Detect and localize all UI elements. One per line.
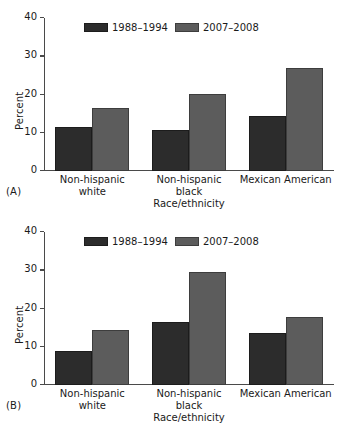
y-axis-tick-label: 40 <box>7 11 37 22</box>
y-axis-tick-mark <box>40 384 44 385</box>
y-axis-tick-mark <box>40 269 44 270</box>
legend-item-series-1: 2007–2008 <box>175 22 259 33</box>
bar <box>286 68 323 171</box>
y-axis-tick-label: 0 <box>7 164 37 175</box>
bar <box>189 272 226 385</box>
y-axis-tick-label: 0 <box>7 378 37 389</box>
y-axis-tick-label: 30 <box>7 49 37 60</box>
panel-label-a: (A) <box>6 186 21 197</box>
y-axis-tick-label: 30 <box>7 263 37 274</box>
x-axis-category-label: Mexican American <box>237 174 334 186</box>
y-axis-tick-label: 20 <box>7 302 37 313</box>
legend-label-series-1: 2007–2008 <box>203 22 259 33</box>
bar <box>55 127 92 171</box>
y-axis-tick-mark <box>40 308 44 309</box>
x-axis-category-label: Non-hispanic white <box>44 388 141 411</box>
legend-label-series-0: 1988–1994 <box>112 236 168 247</box>
y-axis-tick-mark <box>40 132 44 133</box>
y-axis-tick-label: 40 <box>7 225 37 236</box>
legend-b: 1988–1994 2007–2008 <box>84 236 259 247</box>
legend-item-series-0: 1988–1994 <box>84 236 168 247</box>
x-axis-category-label: Non-hispanic black <box>141 174 238 197</box>
panel-label-b: (B) <box>6 400 21 411</box>
y-axis-tick-label: 20 <box>7 88 37 99</box>
bar <box>92 108 129 171</box>
bar <box>286 317 323 385</box>
bar <box>92 330 129 385</box>
y-axis-tick-mark <box>40 170 44 171</box>
x-axis-category-label: Mexican American <box>237 388 334 400</box>
legend-swatch-icon-series-1 <box>175 237 199 246</box>
x-axis-title: Race/ethnicity <box>141 412 238 423</box>
y-axis-tick-mark <box>40 94 44 95</box>
bar <box>152 130 189 171</box>
y-axis-tick-label: 10 <box>7 340 37 351</box>
bar <box>189 94 226 171</box>
chart-panel-a: (A) Percent 1988–1994 2007–2008 01020304… <box>0 0 338 211</box>
legend-item-series-0: 1988–1994 <box>84 22 168 33</box>
legend-label-series-0: 1988–1994 <box>112 22 168 33</box>
x-axis-title: Race/ethnicity <box>141 198 238 209</box>
legend-swatch-icon-series-0 <box>84 237 108 246</box>
y-axis-tick-label: 10 <box>7 126 37 137</box>
chart-panel-b: (B) Percent 1988–1994 2007–2008 01020304… <box>0 210 338 421</box>
y-axis-tick-mark <box>40 17 44 18</box>
x-axis-category-label: Non-hispanic white <box>44 174 141 197</box>
legend-label-series-1: 2007–2008 <box>203 236 259 247</box>
y-axis-tick-mark <box>40 55 44 56</box>
bar <box>249 333 286 385</box>
x-axis-category-label: Non-hispanic black <box>141 388 238 411</box>
legend-a: 1988–1994 2007–2008 <box>84 22 259 33</box>
bar <box>55 351 92 385</box>
y-axis-tick-mark <box>40 346 44 347</box>
legend-item-series-1: 2007–2008 <box>175 236 259 247</box>
y-axis-tick-mark <box>40 231 44 232</box>
bar <box>152 322 189 385</box>
legend-swatch-icon-series-0 <box>84 23 108 32</box>
bar <box>249 116 286 171</box>
legend-swatch-icon-series-1 <box>175 23 199 32</box>
